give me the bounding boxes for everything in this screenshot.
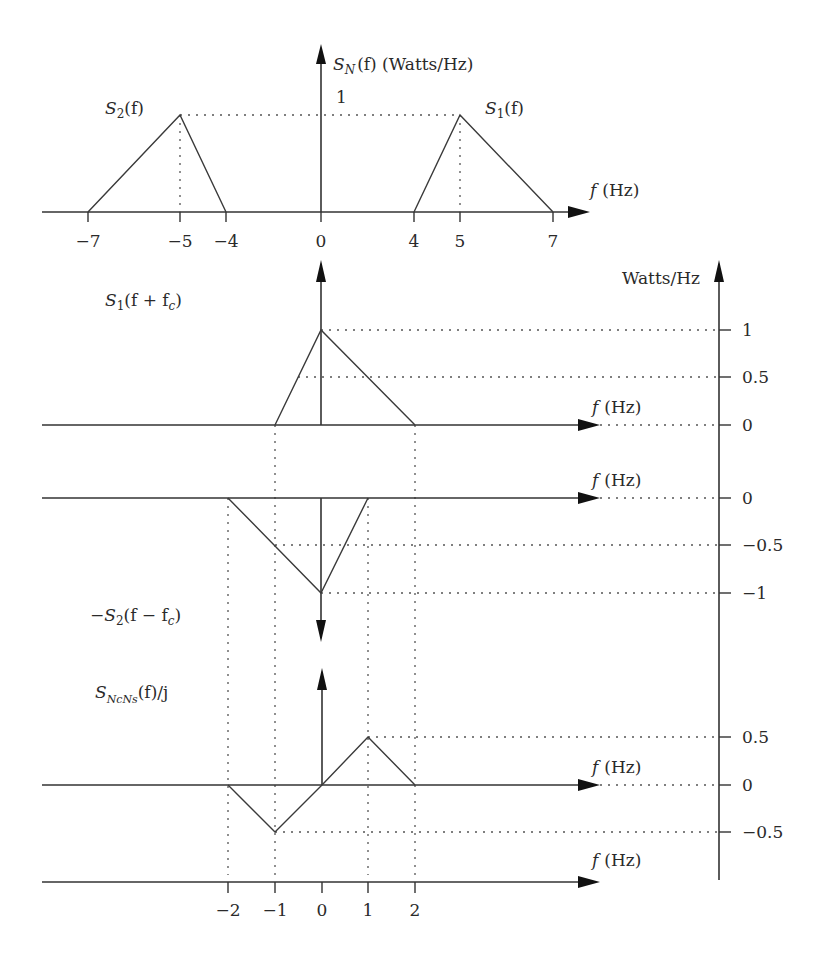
arrow-right-icon <box>578 779 600 791</box>
svg-text:4: 4 <box>409 231 420 251</box>
psd-diagram: SN(f) (Watts/Hz) 1 S2(f) S1(f) f(Hz) −7 … <box>0 0 836 964</box>
svg-text:−7: −7 <box>75 231 100 251</box>
peak-value-label: 1 <box>336 87 347 107</box>
right-axis: Watts/Hz 1 0.5 0 0 −0.5 −1 0.5 0 −0.5 <box>622 260 783 880</box>
panel-b-x-label: f(Hz) <box>590 470 641 490</box>
svg-text:−1: −1 <box>742 583 767 603</box>
svg-text:1: 1 <box>742 320 753 340</box>
panel-s1-shifted: S1(f + fc) f(Hz) <box>42 260 719 431</box>
vertical-guides <box>228 425 415 875</box>
top-x-label: f(Hz) <box>588 180 639 200</box>
arrow-up-icon <box>714 260 724 282</box>
top-tick-labels: −7 −5 −4 0 4 5 7 <box>75 231 558 251</box>
svg-text:0.5: 0.5 <box>742 367 769 387</box>
panel-a-label: S1(f + fc) <box>105 290 182 313</box>
svg-text:−0.5: −0.5 <box>742 535 783 555</box>
s1-curve <box>414 115 553 212</box>
svg-text:0.5: 0.5 <box>742 727 769 747</box>
arrow-right-icon <box>578 876 600 888</box>
arrow-up-icon <box>317 668 327 690</box>
s1-label: S1(f) <box>485 98 524 121</box>
svg-text:2: 2 <box>410 900 421 920</box>
svg-text:−2: −2 <box>215 900 240 920</box>
top-y-label: SN(f) (Watts/Hz) <box>333 54 473 77</box>
svg-text:−4: −4 <box>213 231 238 251</box>
panel-a-x-label: f(Hz) <box>590 397 641 417</box>
svg-text:7: 7 <box>548 231 559 251</box>
s2-curve <box>88 115 226 212</box>
bottom-x-label: f(Hz) <box>590 850 641 870</box>
bottom-axis: −2 −1 0 1 2 f(Hz) <box>42 850 641 920</box>
svg-text:5: 5 <box>455 231 466 251</box>
arrow-up-icon <box>316 44 326 64</box>
top-panel: SN(f) (Watts/Hz) 1 S2(f) S1(f) f(Hz) −7 … <box>42 44 639 251</box>
svg-text:0: 0 <box>317 900 328 920</box>
svg-text:0: 0 <box>316 231 327 251</box>
panel-c-label: SNcNs(f)/j <box>95 682 168 706</box>
panel-b-label: −S2(f − fc) <box>90 605 181 628</box>
svg-text:1: 1 <box>363 900 374 920</box>
svg-text:−1: −1 <box>262 900 287 920</box>
panel-cross-spectrum: SNcNs(f)/j f(Hz) <box>42 668 719 832</box>
svg-text:0: 0 <box>742 415 753 435</box>
arrow-right-icon <box>578 419 600 431</box>
panel-s2-shifted: −S2(f − fc) f(Hz) <box>42 470 719 642</box>
arrow-down-icon <box>316 620 326 642</box>
s2-label: S2(f) <box>105 98 144 121</box>
svg-text:0: 0 <box>742 775 753 795</box>
arrow-right-icon <box>568 206 590 218</box>
right-axis-title: Watts/Hz <box>622 268 700 288</box>
top-ticks <box>88 212 553 222</box>
svg-text:−5: −5 <box>167 231 192 251</box>
svg-text:0: 0 <box>742 488 753 508</box>
panel-c-x-label: f(Hz) <box>590 757 641 777</box>
arrow-right-icon <box>578 492 600 504</box>
svg-text:−0.5: −0.5 <box>742 822 783 842</box>
arrow-up-icon <box>316 260 326 282</box>
